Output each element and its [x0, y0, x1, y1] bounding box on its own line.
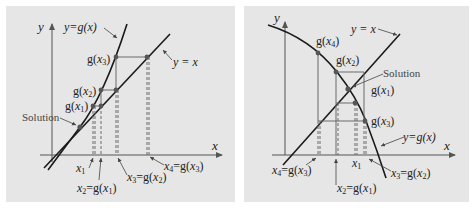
left-x4-label: x4=g(x3) — [163, 159, 203, 174]
left-y-axis-label: y — [36, 19, 44, 34]
left-solution-point — [77, 124, 82, 129]
right-x-axis-label: x — [443, 138, 450, 153]
right-gx2-label: g(x2) — [336, 53, 359, 68]
right-x3-label: x3=g(x2) — [390, 166, 430, 181]
right-gx4-label: g(x4) — [316, 34, 339, 49]
right-y-axis-label: y — [272, 10, 280, 25]
right-gx1-label: g(x1) — [371, 83, 394, 98]
left-gx3-label: g(x3) — [87, 52, 110, 67]
right-x1-label: x1 — [351, 156, 361, 171]
right-line-label: y = x — [350, 22, 376, 36]
left-x2-label: x2=g(x1) — [76, 181, 116, 196]
left-line-label: y = x — [172, 55, 198, 69]
left-solution-label: Solution — [22, 111, 60, 123]
left-diagram: y x y=g(x) y = x g(x3) g — [22, 19, 222, 196]
right-diagram: y x y = x g(x4) g(x2) Solution — [268, 10, 455, 196]
fixed-point-iteration-figure: y x y=g(x) y = x g(x3) g — [0, 0, 475, 208]
left-gx1-label: g(x1) — [65, 99, 88, 114]
right-curve-label: y=g(x) — [402, 130, 436, 144]
right-gx3-label: g(x3) — [371, 114, 394, 129]
right-solution-label: Solution — [383, 67, 421, 79]
right-x4-label: x4=g(x3) — [271, 163, 311, 178]
right-x2-label: x2=g(x1) — [336, 181, 376, 196]
right-solution-point — [345, 86, 350, 91]
left-x-axis-label: x — [211, 138, 218, 153]
left-gx2-label: g(x2) — [73, 84, 96, 99]
left-x1-label: x1 — [75, 161, 85, 176]
left-curve-label: y=g(x) — [63, 20, 97, 34]
left-x3-label: x3=g(x2) — [126, 170, 166, 185]
